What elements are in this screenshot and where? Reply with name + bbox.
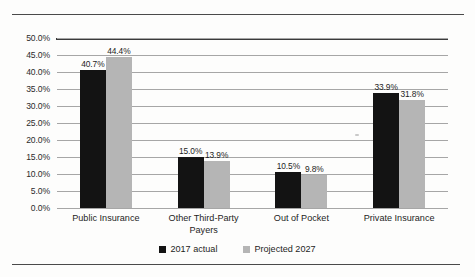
- legend-label-actual: 2017 actual: [170, 244, 217, 254]
- legend-item-actual[interactable]: 2017 actual: [159, 244, 217, 254]
- y-axis-tick-label: 45.0%: [26, 50, 50, 60]
- bar-actual[interactable]: 10.5%: [275, 172, 301, 208]
- scan-artifact-speck: [355, 134, 359, 136]
- bar-projected[interactable]: 31.8%: [399, 100, 425, 208]
- y-axis-tick-label: 10.0%: [26, 169, 50, 179]
- gridline: 0.0%: [57, 208, 448, 209]
- bar-actual[interactable]: 40.7%: [80, 70, 106, 208]
- bar-actual[interactable]: 15.0%: [178, 157, 204, 208]
- bar-actual[interactable]: 33.9%: [373, 93, 399, 208]
- chart-page: 50.0%45.0%40.0%35.0%30.0%25.0%20.0%15.0%…: [0, 0, 475, 277]
- y-axis-tick-label: 20.0%: [26, 135, 50, 145]
- bar-projected[interactable]: 44.4%: [106, 57, 132, 208]
- legend-item-projected[interactable]: Projected 2027: [243, 244, 315, 254]
- y-axis-tick-label: 40.0%: [26, 67, 50, 77]
- y-axis-tick-label: 30.0%: [26, 101, 50, 111]
- legend-label-projected: Projected 2027: [254, 244, 315, 254]
- bar-value-label: 13.9%: [195, 150, 239, 160]
- bar-chart: 50.0%45.0%40.0%35.0%30.0%25.0%20.0%15.0%…: [0, 22, 475, 262]
- y-axis-tick-label: 25.0%: [26, 118, 50, 128]
- y-axis-tick-label: 0.0%: [31, 203, 50, 213]
- page-bottom-rule: [12, 264, 460, 265]
- gridline: 50.0%: [57, 38, 448, 39]
- category-label: Other Third-Party Payers: [155, 213, 253, 236]
- bar-value-label: 31.8%: [390, 89, 434, 99]
- y-axis-tick-label: 15.0%: [26, 152, 50, 162]
- bar-value-label: 44.4%: [97, 46, 141, 56]
- category-label: Private Insurance: [350, 213, 448, 225]
- plot-area: 50.0%45.0%40.0%35.0%30.0%25.0%20.0%15.0%…: [57, 38, 448, 208]
- bar-projected[interactable]: 13.9%: [204, 161, 230, 208]
- category-label: Public Insurance: [57, 213, 155, 225]
- chart-legend: 2017 actual Projected 2027: [0, 244, 475, 254]
- category-label: Out of Pocket: [253, 213, 351, 225]
- bar-projected[interactable]: 9.8%: [301, 175, 327, 208]
- y-axis-tick-label: 35.0%: [26, 84, 50, 94]
- legend-swatch-actual: [159, 246, 166, 253]
- bar-value-label: 9.8%: [292, 164, 336, 174]
- page-top-rule: [12, 14, 464, 15]
- y-axis-tick-label: 50.0%: [26, 33, 50, 43]
- y-axis-tick-label: 5.0%: [31, 186, 50, 196]
- legend-swatch-projected: [243, 246, 250, 253]
